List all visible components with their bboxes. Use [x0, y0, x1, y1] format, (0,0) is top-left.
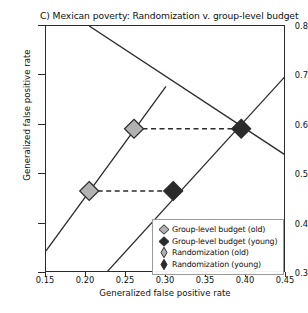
- y-tick-label: 0.4: [282, 219, 308, 229]
- legend-item[interactable]: Group-level budget (old): [156, 224, 279, 236]
- y-axis-label: Generalized false positive rate: [22, 35, 32, 195]
- legend-label: Group-level budget (old): [172, 225, 265, 234]
- x-tick-mark: [285, 272, 286, 277]
- y-tick-mark: [38, 173, 45, 174]
- y-tick-label: 0.5: [282, 169, 308, 179]
- legend-item[interactable]: Group-level budget (young): [156, 236, 279, 248]
- diamond-narrow-dark-icon: [156, 259, 172, 270]
- y-tick-label: 0.7: [282, 70, 308, 80]
- y-tick-mark: [38, 272, 45, 273]
- y-tick-label: 0.6: [282, 120, 308, 130]
- x-tick-mark: [125, 272, 126, 277]
- y-tick-mark: [38, 74, 45, 75]
- diamond-wide-light-icon: [156, 224, 172, 235]
- data-marker-layer: [80, 119, 251, 200]
- y-tick-mark: [38, 124, 45, 125]
- legend-label: Randomization (old): [172, 248, 249, 257]
- x-axis-label: Generalized false positive rate: [45, 288, 285, 298]
- y-tick-mark: [38, 223, 45, 224]
- page-title: C) Mexican poverty: Randomization v. gro…: [40, 10, 308, 21]
- legend-item[interactable]: Randomization (young): [156, 259, 279, 271]
- x-tick-mark: [45, 272, 46, 277]
- y-tick-label: 0.8: [282, 21, 308, 31]
- legend-label: Randomization (young): [172, 260, 261, 269]
- legend: Group-level budget (old) Group-level bud…: [152, 219, 284, 275]
- data-marker[interactable]: [164, 181, 183, 200]
- chart-figure: C) Mexican poverty: Randomization v. gro…: [0, 0, 308, 313]
- data-marker[interactable]: [80, 181, 99, 200]
- x-tick-mark: [85, 272, 86, 277]
- legend-item[interactable]: Randomization (old): [156, 247, 279, 259]
- y-tick-mark: [38, 25, 45, 26]
- diamond-narrow-light-icon: [156, 247, 172, 258]
- budget-frontier: [89, 26, 285, 155]
- legend-label: Group-level budget (young): [172, 237, 277, 246]
- diamond-wide-dark-icon: [156, 236, 172, 247]
